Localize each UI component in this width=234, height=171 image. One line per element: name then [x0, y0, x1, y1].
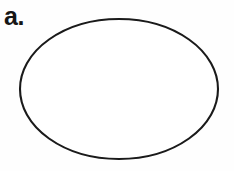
- shape-layer: [0, 0, 234, 171]
- figure-panel: a.: [0, 0, 234, 171]
- ellipse-shape: [20, 19, 218, 159]
